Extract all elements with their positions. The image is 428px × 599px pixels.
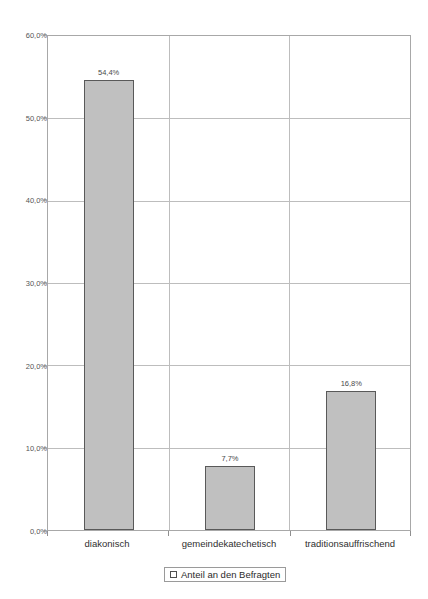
y-axis-tick-label: 50,0% xyxy=(6,113,47,122)
bar-chart: 60,0% 50,0% 40,0% 30,0% 20,0% 10,0% 0,0%… xyxy=(0,0,428,599)
y-axis-tick-label: 10,0% xyxy=(6,444,47,453)
category-divider xyxy=(289,36,290,530)
y-axis-tick-label: 20,0% xyxy=(6,361,47,370)
plot-area: 54,4% 7,7% 16,8% xyxy=(47,35,411,531)
bar xyxy=(326,391,376,530)
bar-value-label: 7,7% xyxy=(221,454,238,463)
x-axis-category-label: traditionsauffrischend xyxy=(305,538,395,549)
bar-value-label: 54,4% xyxy=(98,68,119,77)
legend-label: Anteil an den Befragten xyxy=(181,570,280,580)
chart-legend: Anteil an den Befragten xyxy=(164,567,286,582)
bar xyxy=(84,80,134,530)
bar-value-label: 16,8% xyxy=(341,379,362,388)
category-divider xyxy=(169,36,170,530)
y-axis-tick-label: 30,0% xyxy=(6,279,47,288)
y-axis-tick-label: 40,0% xyxy=(6,196,47,205)
y-axis-tick-label: 60,0% xyxy=(6,31,47,40)
x-axis-tick-mark xyxy=(168,531,169,536)
x-axis-tick-mark xyxy=(47,531,48,536)
x-axis-tick-mark xyxy=(410,531,411,536)
x-axis-tick-mark xyxy=(290,531,291,536)
y-axis-tick-label: 0,0% xyxy=(6,527,47,536)
x-axis-category-label: gemeindekatechetisch xyxy=(182,538,277,549)
x-axis-category-label: diakonisch xyxy=(85,538,130,549)
y-axis: 60,0% 50,0% 40,0% 30,0% 20,0% 10,0% 0,0% xyxy=(0,35,47,531)
bar xyxy=(205,466,255,530)
legend-swatch-icon xyxy=(170,571,177,578)
